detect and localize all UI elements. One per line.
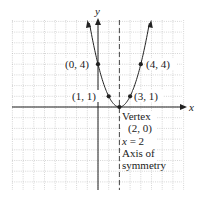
vertex-point (117, 105, 121, 109)
axis-of-symmetry-label-1: Axis of (122, 147, 155, 159)
label-point-3-1: (3, 1) (134, 90, 158, 103)
x-axis-label: x (188, 101, 194, 113)
parabola-graph: x y (0, 4) (4, 4) (1, 1) (3, 1) Vertex (… (0, 0, 199, 202)
point-3-1 (128, 94, 132, 98)
vertex-title: Vertex (122, 110, 151, 122)
point-1-1 (107, 94, 111, 98)
axis-of-symmetry-label-2: symmetry (122, 159, 166, 171)
point-0-4 (96, 62, 100, 66)
label-point-4-4: (4, 4) (146, 58, 170, 71)
point-4-4 (139, 62, 143, 66)
label-point-0-4: (0, 4) (65, 58, 89, 71)
label-point-1-1: (1, 1) (72, 90, 96, 103)
x-axis-arrow-icon (180, 104, 187, 110)
axis-equation: x = 2 (121, 135, 144, 147)
axis-equation-value: = 2 (127, 135, 144, 147)
vertex-coords: (2, 0) (128, 122, 152, 135)
y-axis-label: y (94, 5, 100, 17)
parabola-left-arrow-icon (86, 20, 91, 28)
label-bg (64, 58, 176, 167)
